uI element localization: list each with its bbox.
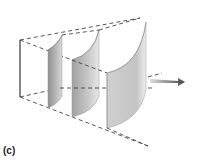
- wavefront-3: [107, 22, 146, 128]
- figure-label: (c): [3, 145, 15, 156]
- wavefront-1: [48, 35, 62, 108]
- wavefront-diagram: [0, 0, 203, 166]
- wavefront-2: [72, 30, 99, 117]
- propagation-arrow-icon: [150, 78, 185, 86]
